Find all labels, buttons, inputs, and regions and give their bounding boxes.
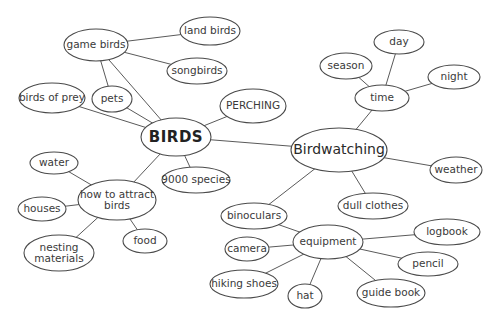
node-label: materials: [34, 252, 83, 264]
node-label: PERCHING: [226, 99, 280, 111]
node-label: hat: [296, 289, 313, 301]
node-game-birds: game birds: [64, 29, 128, 61]
node-label: game birds: [67, 38, 126, 50]
node-label: birds: [104, 199, 130, 211]
node-hiking-shoes: hiking shoes: [210, 270, 278, 298]
node-label: pencil: [412, 257, 443, 269]
node-label: Birdwatching: [293, 141, 385, 157]
node-label: season: [328, 59, 365, 71]
node-birdwatching: Birdwatching: [291, 128, 387, 172]
node-label: camera: [227, 242, 267, 254]
node-houses: houses: [18, 197, 66, 221]
node-label: binoculars: [227, 209, 281, 221]
node-songbirds: songbirds: [167, 58, 227, 84]
node-label: night: [440, 70, 467, 82]
node-birds-of-prey: birds of prey: [19, 83, 85, 113]
node-label: birds of prey: [19, 91, 85, 103]
node-label: logbook: [426, 225, 469, 237]
node-perching: PERCHING: [220, 89, 286, 123]
node-label: day: [389, 35, 408, 47]
mind-map-svg: BIRDSBirdwatchinggame birdsland birdsson…: [0, 0, 502, 319]
node-guide-book: guide book: [357, 279, 425, 307]
node-label: houses: [23, 202, 60, 214]
node-binoculars: binoculars: [221, 203, 287, 229]
node-birds: BIRDS: [141, 118, 211, 156]
node-label: guide book: [362, 286, 421, 298]
node-label: BIRDS: [149, 128, 203, 146]
node-time: time: [355, 85, 409, 111]
node-food: food: [123, 229, 167, 253]
node-label: dull clothes: [343, 199, 403, 211]
node-pets: pets: [92, 86, 132, 112]
node-weather: weather: [430, 157, 482, 183]
node-label: 9000 species: [161, 173, 230, 185]
node-label: songbirds: [171, 64, 222, 76]
node-label: equipment: [300, 235, 357, 247]
node-dull-clothes: dull clothes: [338, 193, 408, 219]
node-nesting: nestingmaterials: [24, 235, 94, 271]
node-label: time: [370, 91, 394, 103]
node-label: pets: [101, 92, 124, 104]
node-pencil: pencil: [398, 252, 458, 276]
node-water: water: [30, 152, 78, 174]
node-equipment: equipment: [293, 225, 363, 259]
node-species: 9000 species: [161, 167, 230, 193]
node-logbook: logbook: [414, 219, 480, 245]
node-label: land birds: [184, 24, 236, 36]
node-camera: camera: [225, 237, 269, 261]
mind-map-canvas: BIRDSBirdwatchinggame birdsland birdsson…: [0, 0, 502, 319]
node-night: night: [428, 65, 480, 89]
node-hat: hat: [288, 284, 322, 308]
node-season: season: [320, 53, 372, 79]
node-label: weather: [434, 163, 478, 175]
node-label: hiking shoes: [211, 277, 277, 289]
node-label: food: [133, 234, 156, 246]
node-how-to-attract: how to attractbirds: [78, 180, 156, 220]
node-label: water: [39, 156, 70, 168]
node-day: day: [374, 30, 424, 54]
node-land-birds: land birds: [180, 17, 240, 45]
